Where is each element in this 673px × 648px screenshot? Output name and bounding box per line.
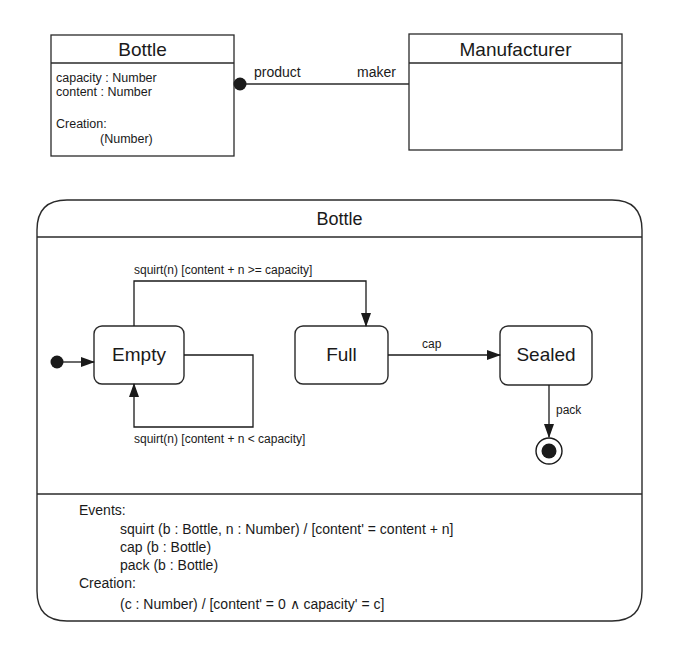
bottle-creation-params: (Number) [100,133,153,146]
spec-creation-label: Creation: [79,576,136,590]
transition-label-cap: cap [422,338,441,350]
spec-event-squirt: squirt (b : Bottle, n : Number) / [conte… [120,522,453,536]
bottle-attribute-capacity: capacity : Number [56,72,157,85]
bottle-class-name: Bottle [51,40,234,59]
spec-events-label: Events: [79,503,126,517]
association-role-product: product [254,65,301,79]
spec-event-cap: cap (b : Bottle) [120,540,211,554]
transition-label-empty-self: squirt(n) [content + n < capacity] [134,433,305,445]
transition-label-empty-to-full: squirt(n) [content + n >= capacity] [134,264,312,276]
spec-creation: (c : Number) / [content' = 0 ∧ capacity'… [120,597,384,611]
final-state-icon [536,438,562,464]
manufacturer-class-name: Manufacturer [409,40,622,59]
bottle-creation-label: Creation: [56,118,107,131]
state-sealed-label: Sealed [500,345,592,364]
state-machine-title: Bottle [37,210,642,228]
bottle-attribute-content: content : Number [56,86,152,99]
transition-label-pack: pack [556,404,581,416]
association-role-maker: maker [357,65,396,79]
initial-state-icon [51,356,64,369]
spec-event-pack: pack (b : Bottle) [120,558,218,572]
state-full-label: Full [295,345,388,364]
state-empty-label: Empty [94,345,184,364]
association-end-dot [234,78,247,91]
